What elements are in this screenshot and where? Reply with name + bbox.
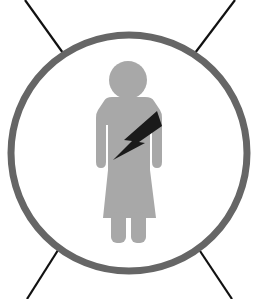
connector-line-top-right — [195, 0, 235, 53]
connector-line-top-left — [25, 0, 63, 53]
connector-line-bottom-right — [198, 248, 232, 299]
figure-body — [96, 97, 162, 218]
diagram-canvas — [0, 0, 263, 299]
figure-right-leg — [131, 212, 146, 243]
figure-left-leg — [111, 212, 126, 243]
connector-line-bottom-left — [27, 247, 60, 299]
figure-head — [109, 61, 147, 99]
